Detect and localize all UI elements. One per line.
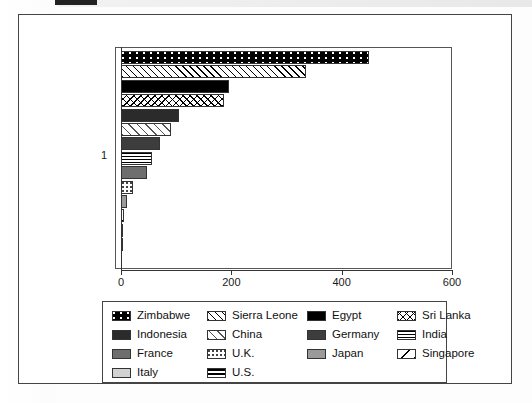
legend-item-indonesia: Indonesia (112, 326, 207, 343)
legend-label: Japan (332, 348, 363, 360)
legend-item-germany: Germany (307, 326, 397, 343)
bar-series-container (121, 51, 452, 252)
x-tick-label: 200 (222, 276, 240, 288)
legend-label: Singapore (422, 348, 474, 360)
legend-swatch-icon (397, 330, 416, 340)
bar-u-s (121, 238, 123, 251)
legend-label: Sri Lanka (422, 310, 471, 322)
page-top-strip-marker (55, 0, 97, 5)
legend-item-u-s: U.S. (207, 364, 307, 381)
legend-swatch-icon (207, 349, 226, 359)
bar-u-k (121, 181, 133, 194)
legend-swatch-icon (207, 330, 226, 340)
chart-legend: ZimbabweSierra LeoneEgyptSri LankaIndone… (102, 301, 447, 383)
bar-sierra-leone (121, 65, 306, 78)
legend-swatch-icon (397, 311, 416, 321)
legend-item-singapore: Singapore (397, 345, 457, 362)
x-tick-mark (452, 270, 453, 275)
legend-label: Germany (332, 329, 379, 341)
legend-swatch-icon (307, 330, 326, 340)
legend-swatch-icon (307, 311, 326, 321)
legend-label: China (232, 329, 262, 341)
x-tick-label: 400 (332, 276, 350, 288)
y-axis-tick-label: 1 (101, 149, 107, 161)
bar-france (121, 166, 147, 179)
legend-label: U.K. (232, 348, 254, 360)
page-top-strip (55, 0, 532, 7)
legend-label: India (422, 329, 447, 341)
bar-egypt (121, 80, 229, 93)
legend-item-india: India (397, 326, 457, 343)
bar-sri-lanka (121, 94, 224, 107)
bar-zimbabwe (121, 51, 369, 64)
x-tick-label: 0 (118, 276, 124, 288)
screenshot-page: 1 0200400600 ZimbabweSierra LeoneEgyptSr… (0, 0, 532, 403)
legend-label: U.S. (232, 367, 254, 379)
legend-item-china: China (207, 326, 307, 343)
legend-item-sri-lanka: Sri Lanka (397, 307, 457, 324)
legend-item-egypt: Egypt (307, 307, 397, 324)
bar-indonesia (121, 109, 179, 122)
x-axis-line (121, 270, 452, 271)
bar-india (121, 152, 152, 165)
legend-swatch-icon (112, 349, 131, 359)
legend-label: Sierra Leone (232, 310, 298, 322)
x-tick-mark (231, 270, 232, 275)
bar-singapore (121, 209, 124, 222)
legend-item-italy: Italy (112, 364, 207, 381)
legend-swatch-icon (307, 349, 326, 359)
legend-item-sierra-leone: Sierra Leone (207, 307, 307, 324)
legend-label: Egypt (332, 310, 361, 322)
legend-swatch-icon (397, 349, 416, 359)
x-tick-label: 600 (443, 276, 461, 288)
legend-swatch-icon (112, 311, 131, 321)
legend-label: Italy (137, 367, 158, 379)
legend-label: France (137, 348, 173, 360)
legend-label: Zimbabwe (137, 310, 190, 322)
legend-swatch-icon (112, 368, 131, 378)
x-tick-mark (121, 270, 122, 275)
bar-germany (121, 137, 160, 150)
legend-swatch-icon (207, 311, 226, 321)
legend-item-japan: Japan (307, 345, 397, 362)
bar-china (121, 123, 171, 136)
legend-swatch-icon (207, 368, 226, 378)
legend-item-france: France (112, 345, 207, 362)
bar-italy (121, 224, 123, 237)
legend-label: Indonesia (137, 329, 187, 341)
legend-item-zimbabwe: Zimbabwe (112, 307, 207, 324)
legend-grid: ZimbabweSierra LeoneEgyptSri LankaIndone… (103, 307, 446, 381)
legend-swatch-icon (112, 330, 131, 340)
x-tick-mark (342, 270, 343, 275)
bar-japan (121, 195, 127, 208)
figure-frame: 1 0200400600 ZimbabweSierra LeoneEgyptSr… (18, 14, 512, 384)
legend-item-u-k: U.K. (207, 345, 307, 362)
